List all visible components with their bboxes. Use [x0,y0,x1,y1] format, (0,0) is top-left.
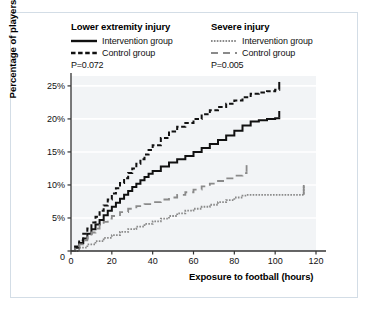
y-tick-label: 0 [60,252,65,262]
x-tick-label: 100 [268,256,283,266]
y-tick-label: 5% [52,213,65,223]
x-tick-label: 80 [229,256,239,266]
x-tick-label: 40 [148,256,158,266]
plot-background [71,76,316,251]
y-axis-label: Percentage of players [7,0,18,109]
grid-lines [71,76,316,251]
chart-svg: 05%10%15%20%25%020406080100120 [11,13,359,299]
chart-plot-area: 05%10%15%20%25%020406080100120 Percentag… [11,13,359,299]
y-tick-label: 20% [47,114,65,124]
x-axis-label: Exposure to football (hours) [189,271,349,282]
y-tick-label: 25% [47,81,65,91]
chart-figure: Lower extremity injury Intervention grou… [10,12,358,298]
y-tick-label: 15% [47,147,65,157]
x-tick-label: 60 [188,256,198,266]
x-tick-label: 120 [308,256,323,266]
y-tick-label: 10% [47,180,65,190]
x-tick-label: 0 [68,256,73,266]
x-tick-label: 20 [107,256,117,266]
